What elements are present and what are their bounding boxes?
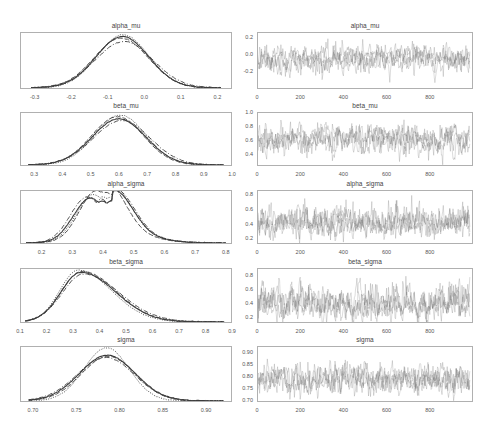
- y-tick-label: 0.2: [245, 235, 253, 241]
- kde-line-chain-0: [25, 272, 224, 322]
- x-tick-label: 0.8: [222, 249, 230, 255]
- x-tick-label: 0: [255, 249, 258, 255]
- x-tick-label: 0.1: [177, 94, 185, 100]
- subplot-kde-beta-sigma: beta_sigma0.10.20.30.40.50.60.70.80.9: [16, 258, 236, 334]
- plot-area: [257, 359, 470, 401]
- kde-line-chain-3: [25, 274, 224, 322]
- y-tick-label: 0.75: [242, 385, 253, 391]
- x-tick-label: 0.2: [38, 249, 46, 255]
- x-tick-label: 400: [339, 249, 348, 255]
- x-tick-label: 0: [255, 171, 258, 177]
- x-tick-label: 0: [255, 407, 258, 413]
- x-tick-label: 800: [425, 328, 434, 334]
- x-tick-label: 600: [382, 249, 391, 255]
- y-tick-label: 0.8: [245, 272, 253, 278]
- x-tick-label: 0.9: [228, 328, 236, 334]
- x-tick-label: 0.6: [115, 171, 123, 177]
- y-tick-label: 0.6: [245, 286, 253, 292]
- subplot-trace-alpha-sigma: alpha_sigma02004006008000.80.60.40.2: [245, 180, 472, 255]
- trace-line-chain-3: [257, 361, 470, 397]
- plot-area: [25, 270, 224, 322]
- trace-line-chain-3: [257, 276, 470, 326]
- x-tick-label: 200: [296, 328, 305, 334]
- x-tick-label: 0.3: [68, 249, 76, 255]
- y-tick-label: 0.2: [245, 314, 253, 320]
- y-tick-label: 0.8: [245, 191, 253, 197]
- subplot-trace-beta-mu: beta_mu02004006008001.00.80.60.4: [245, 102, 472, 177]
- x-tick-label: 800: [425, 171, 434, 177]
- subplot-title: sigma: [356, 336, 374, 344]
- plot-area: [31, 35, 221, 89]
- trace-line-chain-0: [257, 201, 470, 241]
- trace-line-chain-1: [257, 282, 470, 324]
- x-tick-label: 0.0: [140, 94, 148, 100]
- kde-line-chain-3: [29, 120, 224, 165]
- x-tick-label: 400: [339, 328, 348, 334]
- x-tick-label: 0.5: [130, 249, 138, 255]
- kde-line-chain-2: [25, 271, 224, 322]
- x-tick-label: 0.2: [214, 94, 222, 100]
- y-tick-label: 0.8: [245, 123, 253, 129]
- subplot-title: beta_sigma: [109, 258, 143, 266]
- y-tick-label: 0.6: [245, 206, 253, 212]
- y-tick-label: 0.70: [242, 397, 253, 403]
- x-tick-label: 400: [339, 171, 348, 177]
- y-tick-label: 0.4: [245, 221, 253, 227]
- x-tick-label: -0.3: [30, 94, 39, 100]
- x-tick-label: 0: [255, 328, 258, 334]
- x-tick-label: 0.7: [191, 249, 199, 255]
- x-tick-label: -0.2: [66, 94, 75, 100]
- x-tick-label: 0.70: [28, 407, 39, 413]
- y-tick-label: 0.4: [245, 151, 253, 157]
- x-tick-label: 0.80: [114, 407, 125, 413]
- x-tick-label: 0.7: [175, 328, 183, 334]
- x-tick-label: 600: [382, 328, 391, 334]
- trace-line-chain-1: [257, 201, 470, 244]
- x-tick-label: 0.9: [200, 171, 208, 177]
- subplot-kde-alpha-sigma: alpha_sigma0.20.30.40.50.60.70.8: [21, 180, 232, 255]
- x-tick-label: 0.7: [143, 171, 151, 177]
- x-tick-label: 0: [255, 94, 258, 100]
- x-tick-label: 0.4: [96, 328, 104, 334]
- subplot-title: beta_sigma: [348, 258, 382, 266]
- y-tick-label: 0.2: [245, 34, 253, 40]
- subplot-title: alpha_mu: [351, 22, 380, 30]
- x-tick-label: 0.4: [99, 249, 107, 255]
- x-tick-label: 200: [296, 407, 305, 413]
- x-tick-label: 400: [339, 94, 348, 100]
- x-tick-label: 400: [339, 407, 348, 413]
- x-tick-label: 0.75: [71, 407, 82, 413]
- y-tick-label: 1.0: [245, 109, 253, 115]
- axes-frame: [21, 269, 232, 323]
- subplot-title: sigma: [117, 336, 135, 344]
- kde-line-chain-0: [31, 36, 221, 88]
- y-tick-label: 0.90: [242, 349, 253, 355]
- subplot-trace-sigma: sigma02004006008000.900.850.800.750.70: [242, 336, 472, 413]
- subplot-trace-beta-sigma: beta_sigma02004006008000.80.60.40.2: [245, 258, 472, 334]
- x-tick-label: 1.0: [228, 171, 236, 177]
- plot-area: [257, 39, 470, 83]
- kde-line-chain-2: [31, 38, 221, 88]
- kde-line-chain-2: [29, 356, 224, 401]
- y-tick-label: -0.2: [244, 68, 253, 74]
- x-tick-label: 200: [296, 249, 305, 255]
- subplot-trace-alpha-mu: alpha_mu02004006008000.20.0-0.2: [244, 22, 473, 100]
- plot-area: [257, 120, 470, 165]
- subplot-title: alpha_sigma: [108, 180, 145, 188]
- plot-area: [257, 276, 470, 326]
- x-tick-label: 0.90: [201, 407, 212, 413]
- x-tick-label: 0.3: [69, 328, 77, 334]
- x-tick-label: 0.5: [122, 328, 130, 334]
- subplot-title: beta_mu: [113, 102, 139, 110]
- x-tick-label: 0.4: [59, 171, 67, 177]
- x-tick-label: 800: [425, 407, 434, 413]
- x-tick-label: 600: [382, 171, 391, 177]
- y-tick-label: 0.80: [242, 373, 253, 379]
- subplot-title: alpha_mu: [112, 22, 141, 30]
- plot-area: [29, 348, 224, 402]
- x-tick-label: 800: [425, 94, 434, 100]
- x-tick-label: 0.6: [149, 328, 157, 334]
- x-tick-label: 200: [296, 171, 305, 177]
- trace-line-chain-0: [257, 277, 470, 325]
- x-tick-label: 0.85: [157, 407, 168, 413]
